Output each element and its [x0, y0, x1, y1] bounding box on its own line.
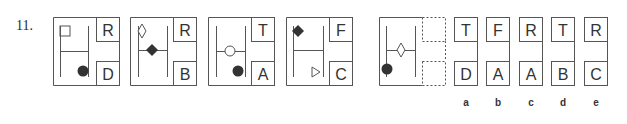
top-letter-box-letter: F [336, 22, 346, 39]
option-top-box-letter: R [590, 22, 602, 39]
bottom-letter-box-letter: C [335, 66, 347, 83]
circle-icon [225, 46, 235, 56]
option-bottom-box-letter: D [460, 66, 472, 83]
top-letter-box-letter: R [179, 22, 191, 39]
bottom-letter-box-letter: A [258, 66, 269, 83]
bottom-letter-box-letter: D [102, 66, 114, 83]
option-label-a[interactable]: a [454, 97, 478, 108]
option-bottom-box-letter: A [493, 66, 504, 83]
option-bottom-box-letter: B [558, 66, 569, 83]
filled-circle-icon [233, 66, 244, 77]
option-bottom-box-letter: C [590, 66, 602, 83]
diamond-icon [397, 43, 405, 57]
option-label-e[interactable]: e [584, 97, 608, 108]
bottom-letter-box-letter: B [180, 66, 191, 83]
option-top-box-letter: F [493, 22, 503, 39]
filled-circle-icon [78, 66, 89, 77]
sequence-panel-4: FC [287, 18, 353, 86]
answer-option-e[interactable]: RC [585, 18, 608, 86]
top-letter-box-letter: T [258, 22, 268, 39]
option-label-b[interactable]: b [486, 97, 510, 108]
answer-option-c[interactable]: RA [520, 18, 543, 86]
sequence-panel-3: TA [209, 18, 275, 86]
filled-circle-icon [382, 64, 393, 75]
sequence-panel-1: RD [54, 18, 120, 86]
option-top-box-letter: R [525, 22, 537, 39]
square-icon [60, 26, 70, 36]
answer-option-d[interactable]: TB [552, 18, 575, 86]
answer-option-b[interactable]: FA [487, 18, 510, 86]
puzzle-figure: 11. RDRBTAFCTDFARATBRC abcde [0, 0, 627, 124]
missing-top-box [423, 18, 446, 42]
missing-bottom-box [423, 62, 446, 86]
option-bottom-box-letter: A [526, 66, 537, 83]
question-panel [380, 18, 446, 86]
option-top-box-letter: T [558, 22, 568, 39]
option-top-box-letter: T [461, 22, 471, 39]
triangle-icon [312, 67, 320, 77]
top-letter-box-letter: R [102, 22, 114, 39]
answer-option-a[interactable]: TD [455, 18, 478, 86]
option-label-d[interactable]: d [551, 97, 575, 108]
option-label-c[interactable]: c [519, 97, 543, 108]
diamond-icon [138, 24, 146, 38]
sequence-panel-2: RB [131, 18, 197, 86]
filled-diamond-icon [146, 44, 158, 56]
